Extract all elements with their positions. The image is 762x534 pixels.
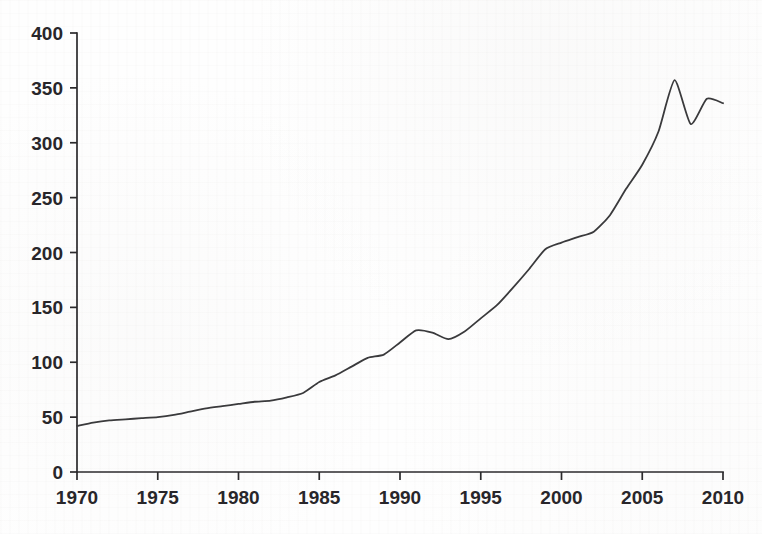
x-axis-tick-label: 1985 xyxy=(298,487,341,508)
x-axis-tick-label: 2010 xyxy=(702,487,744,508)
y-axis-tick-label: 150 xyxy=(31,297,63,318)
data-series-line xyxy=(77,80,723,426)
x-axis-tick-label: 1970 xyxy=(56,487,98,508)
plot-background xyxy=(77,33,723,472)
x-axis-tick-label: 2005 xyxy=(621,487,664,508)
x-axis-tick-label: 1980 xyxy=(217,487,259,508)
y-axis-tick-label: 50 xyxy=(42,407,63,428)
y-axis-tick-label: 350 xyxy=(31,78,63,99)
x-axis-tick-label: 1975 xyxy=(137,487,180,508)
x-axis-tick-label: 2000 xyxy=(540,487,582,508)
y-axis-tick-label: 250 xyxy=(31,188,63,209)
y-axis-tick-label: 400 xyxy=(31,23,63,44)
y-axis-tick-label: 0 xyxy=(52,462,63,483)
y-axis-ticks: 050100150200250300350400 xyxy=(31,23,77,483)
y-axis-tick-label: 100 xyxy=(31,352,63,373)
x-axis-tick-label: 1995 xyxy=(460,487,503,508)
y-axis-tick-label: 200 xyxy=(31,243,63,264)
chart-page: 050100150200250300350400 197019751980198… xyxy=(0,0,762,534)
line-chart: 050100150200250300350400 197019751980198… xyxy=(0,0,762,534)
y-axis-tick-label: 300 xyxy=(31,133,63,154)
x-axis-tick-label: 1990 xyxy=(379,487,421,508)
x-axis-ticks: 197019751980198519901995200020052010 xyxy=(56,472,744,508)
